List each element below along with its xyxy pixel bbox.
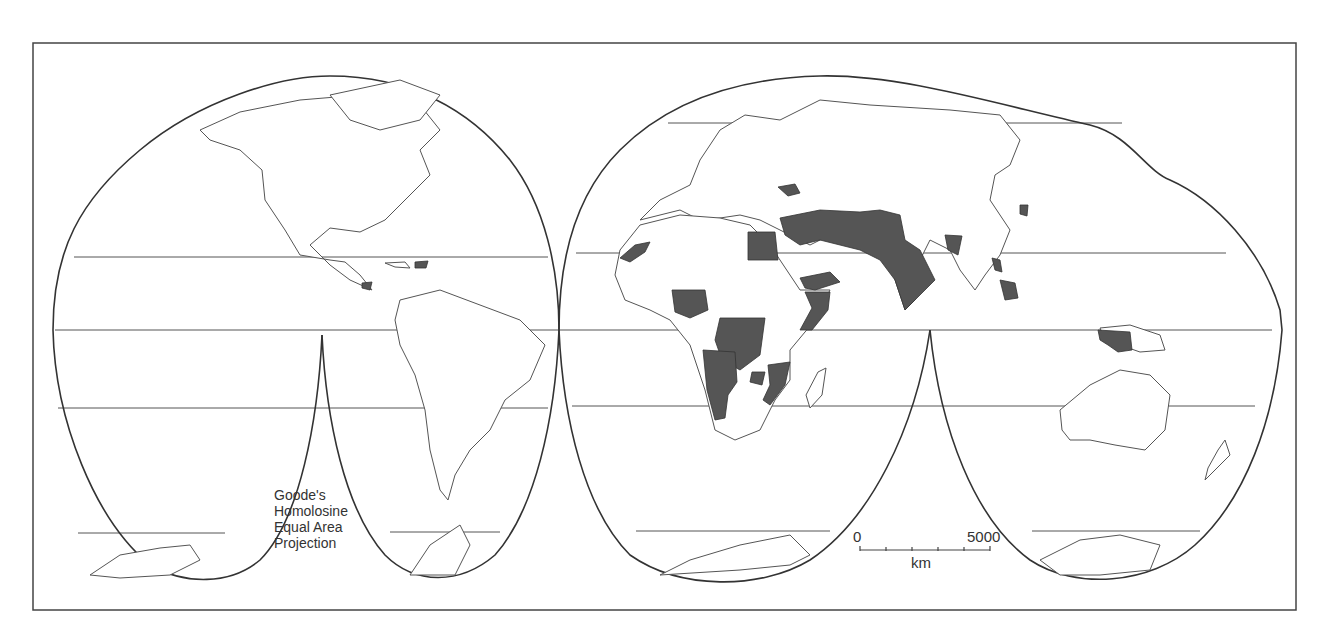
scale-end-label: 5000 <box>967 529 1000 545</box>
region-haiti <box>415 261 428 268</box>
region-egypt <box>748 232 778 260</box>
projection-label: Goode's Homolosine Equal Area Projection <box>274 487 394 551</box>
region-yemen <box>800 272 840 290</box>
region-cambodia <box>1000 280 1018 300</box>
region-korea <box>1020 205 1028 216</box>
australia <box>1060 370 1170 450</box>
region-laos <box>992 258 1002 272</box>
landmasses <box>90 80 1230 578</box>
south-america <box>395 290 545 500</box>
scale-start-label: 0 <box>853 529 861 545</box>
projection-label-line-3: Equal Area <box>274 519 394 535</box>
projection-label-line-1: Goode's <box>274 487 394 503</box>
region-nicaragua <box>362 282 372 290</box>
world-map <box>0 0 1328 637</box>
projection-label-line-4: Projection <box>274 535 394 551</box>
projection-label-line-2: Homolosine <box>274 503 394 519</box>
graticule <box>55 123 1272 533</box>
scale-bar <box>860 546 990 551</box>
projection-outline <box>53 76 1282 582</box>
scale-unit-label: km <box>911 555 931 571</box>
region-papua <box>1098 330 1132 352</box>
